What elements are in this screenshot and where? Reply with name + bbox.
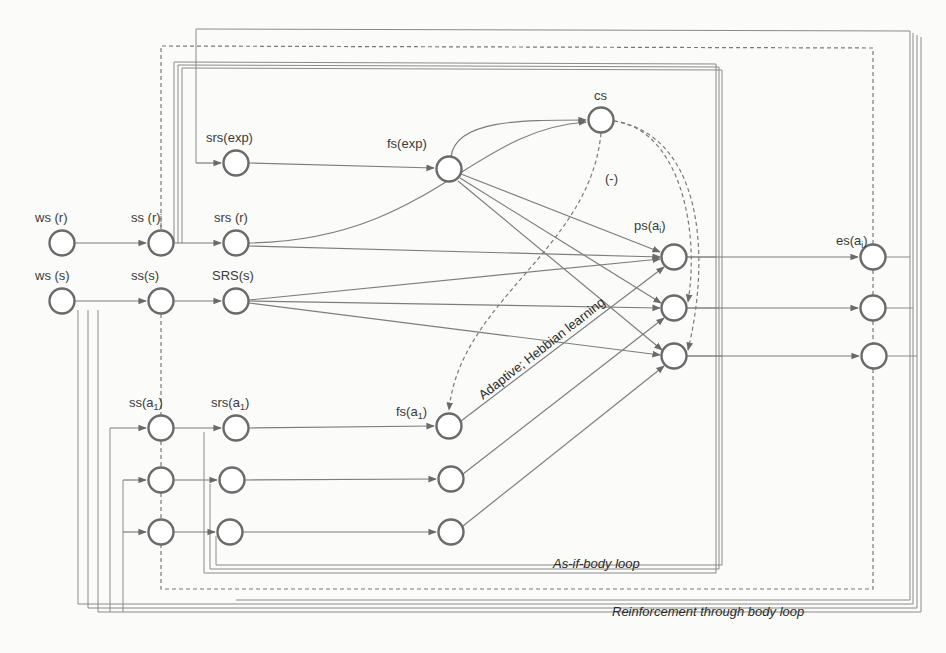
nodes [50, 108, 887, 545]
label-body-loop: Reinforcement through body loop [612, 604, 804, 619]
node-fs-a1 [437, 414, 462, 439]
label-srs-s: SRS(s) [212, 268, 254, 283]
node-srs-s [224, 289, 249, 314]
node-ss-a3 [149, 520, 174, 545]
node-srs-exp [224, 151, 249, 176]
node-es-a2 [861, 296, 886, 321]
label-ss-s: ss(s) [131, 268, 159, 283]
node-cs [589, 108, 614, 133]
label-srs-exp: srs(exp) [206, 130, 253, 145]
node-srs-a2 [220, 468, 245, 493]
label-fs-exp: fs(exp) [387, 136, 427, 151]
label-srs-a1: srs(a1) [211, 395, 249, 412]
node-ss-r [149, 231, 174, 256]
node-fs-a2 [439, 467, 464, 492]
node-srs-a1 [224, 416, 249, 441]
node-ws-r [50, 231, 75, 256]
label-suppression: (-) [605, 171, 618, 186]
node-ss-s [149, 289, 174, 314]
label-srs-r: srs (r) [214, 210, 248, 225]
edges [75, 120, 859, 532]
cognitive-model-diagram: ws (r) ws (s) ss (r) ss(s) ss(a1) srs(ex… [0, 0, 946, 653]
label-fs-a1: fs(a1) [396, 404, 427, 421]
node-srs-a3 [218, 520, 243, 545]
label-as-if-body-loop: As-if-body loop [552, 556, 640, 571]
as-if-body-loop-lines [174, 62, 722, 573]
label-ps-a: ps(ai) [634, 218, 666, 235]
node-fs-a3 [439, 520, 464, 545]
node-ws-s [50, 289, 75, 314]
label-cs: cs [594, 88, 608, 103]
label-ws-s: ws (s) [34, 268, 70, 283]
node-ps-a1 [662, 245, 687, 270]
node-fs-exp [437, 157, 462, 182]
prediction-dashed-loop [161, 46, 873, 589]
node-es-a1 [861, 245, 886, 270]
label-ws-r: ws (r) [34, 210, 68, 225]
label-ss-r: ss (r) [131, 210, 161, 225]
node-srs-r [224, 231, 249, 256]
label-es-a: es(ai) [836, 233, 868, 250]
node-ps-a2 [662, 296, 687, 321]
node-ps-a3 [662, 344, 687, 369]
node-ss-a1 [149, 416, 174, 441]
node-ss-a2 [149, 468, 174, 493]
label-hebbian: Adaptive; Hebbian learning [476, 294, 608, 402]
node-es-a3 [862, 344, 887, 369]
label-ss-a1: ss(a1) [129, 395, 163, 412]
